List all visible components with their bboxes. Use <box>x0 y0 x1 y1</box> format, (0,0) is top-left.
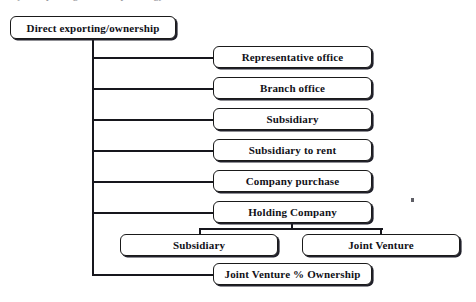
node-label: Representative office <box>242 51 344 63</box>
node-label: Subsidiary <box>173 239 225 251</box>
connector-to-subsidiary-to-rent <box>92 150 215 152</box>
node-subsidiary-to-rent[interactable]: Subsidiary to rent <box>213 139 372 161</box>
page-text-bleed: ty of exporting/ownership strategy <box>14 0 454 2</box>
node-holding-subsidiary[interactable]: Subsidiary <box>120 234 278 256</box>
connector-to-representative-office <box>92 57 215 59</box>
node-label: Joint Venture % Ownership <box>225 268 361 280</box>
diagram-canvas: ty of exporting/ownership strategy Direc… <box>0 0 476 302</box>
node-holding-company[interactable]: Holding Company <box>213 201 372 223</box>
node-label: Subsidiary <box>266 113 318 125</box>
connector-to-subsidiary <box>92 119 215 121</box>
node-label: Holding Company <box>248 206 337 218</box>
connector-to-holding-company <box>92 212 215 214</box>
holding-fork-crossbar <box>199 228 383 230</box>
node-label: Company purchase <box>246 175 340 187</box>
connector-to-joint-venture-ownership <box>92 274 215 276</box>
scan-artifact-speck <box>411 198 414 202</box>
node-company-purchase[interactable]: Company purchase <box>213 170 372 192</box>
node-joint-venture-percent-ownership[interactable]: Joint Venture % Ownership <box>213 263 372 285</box>
connector-to-company-purchase <box>92 181 215 183</box>
node-joint-venture[interactable]: Joint Venture <box>302 234 460 256</box>
node-direct-exporting-ownership[interactable]: Direct exporting/ownership <box>10 16 176 39</box>
node-label: Branch office <box>260 82 325 94</box>
node-subsidiary[interactable]: Subsidiary <box>213 108 372 130</box>
connector-to-branch-office <box>92 88 215 90</box>
node-branch-office[interactable]: Branch office <box>213 77 372 99</box>
node-label: Joint Venture <box>348 239 414 251</box>
node-label: Direct exporting/ownership <box>27 22 160 34</box>
trunk-vertical-line <box>92 38 94 276</box>
node-label: Subsidiary to rent <box>249 144 336 156</box>
node-representative-office[interactable]: Representative office <box>213 46 372 68</box>
